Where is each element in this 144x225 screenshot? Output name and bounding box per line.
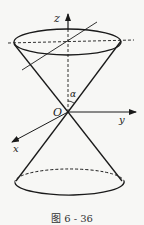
angle-alpha-arc xyxy=(68,101,74,103)
origin-label: O xyxy=(53,106,62,119)
y-axis-label: y xyxy=(118,114,125,125)
upper-cone-left-edge xyxy=(14,44,68,112)
lower-cone-right-edge xyxy=(68,112,122,181)
angle-alpha-label: α xyxy=(70,89,76,99)
bottom-ellipse-front xyxy=(15,181,124,195)
x-axis-label: x xyxy=(13,143,19,154)
top-dashed-diameter xyxy=(8,40,134,43)
top-ellipse xyxy=(14,29,121,55)
bottom-ellipse-back xyxy=(15,169,124,183)
upper-cone-right-edge xyxy=(68,41,121,112)
z-axis-label: z xyxy=(53,12,60,25)
figure-caption: 图 6 - 36 xyxy=(51,213,93,224)
double-cone-diagram: z α O y x 图 6 - 36 xyxy=(0,0,144,225)
